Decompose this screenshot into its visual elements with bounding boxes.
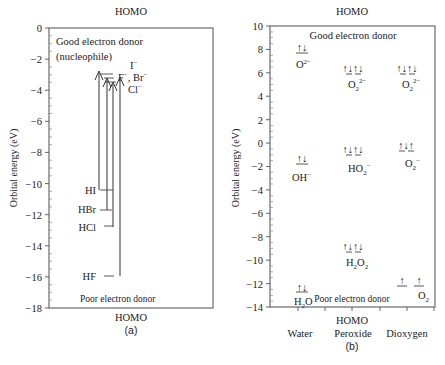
panel-b-poor-donor-label: Poor electron donor <box>314 294 390 304</box>
svg-text:−12: −12 <box>247 279 263 290</box>
category-peroxide: Peroxide <box>334 328 372 339</box>
svg-text:↑↓↑↓: ↑↓↑↓ <box>397 63 418 74</box>
panel-b-title: HOMO <box>336 6 369 17</box>
svg-text:−18: −18 <box>26 303 42 314</box>
svg-text:↑↓↑↓: ↑↓↑↓ <box>343 241 364 252</box>
svg-text:−8: −8 <box>31 147 42 158</box>
svg-text:−4: −4 <box>252 185 264 196</box>
svg-text:0: 0 <box>37 23 42 34</box>
svg-text:−4: −4 <box>31 85 43 96</box>
svg-text:↑↓: ↑↓ <box>297 42 308 53</box>
svg-text:I−: I− <box>130 59 138 71</box>
svg-text:↑↓↑↓: ↑↓↑↓ <box>343 63 364 74</box>
label-HCl: HCl <box>78 222 96 233</box>
svg-text:−8: −8 <box>252 232 263 243</box>
panel-a-caption: (a) <box>125 324 138 336</box>
svg-text:↑↓↑: ↑↓↑ <box>398 140 414 151</box>
panel-a-nucleophile-label: (nucleophile) <box>56 51 112 63</box>
panel-a-x-axis-label: HOMO <box>115 312 148 323</box>
homo-energy-figure: HOMO <box>0 0 445 365</box>
svg-text:F−, Br−: F−, Br− <box>118 71 148 83</box>
panel-a: HOMO <box>8 6 213 336</box>
svg-text:−16: −16 <box>26 272 42 283</box>
svg-text:↑↓: ↑↓ <box>297 153 308 164</box>
svg-text:10: 10 <box>253 21 264 32</box>
panel-a-y-axis-label: Orbital energy (eV) <box>8 129 20 208</box>
label-H2O: H2O <box>294 296 313 310</box>
svg-text:8: 8 <box>258 44 263 55</box>
label-O2-2minus-peroxide: O22− <box>348 77 367 93</box>
panel-a-title: HOMO <box>115 6 148 17</box>
svg-text:Cl−: Cl− <box>128 83 142 95</box>
label-HBr: HBr <box>78 204 97 215</box>
panel-b-y-tick-labels: 10 8 6 4 2 0 −2 −4 −6 −8 −10 −12 −14 <box>247 21 264 313</box>
svg-text:−2: −2 <box>252 161 263 172</box>
svg-text:−14: −14 <box>247 302 264 313</box>
label-HO2minus: HO2− <box>348 162 371 177</box>
svg-text:6: 6 <box>258 68 263 79</box>
svg-text:↑↓↑↓: ↑↓↑↓ <box>343 144 364 155</box>
panel-a-arrows <box>95 71 124 276</box>
svg-text:↑: ↑ <box>416 275 421 286</box>
label-HI: HI <box>85 185 97 196</box>
svg-text:−6: −6 <box>252 208 263 219</box>
category-water: Water <box>288 328 313 339</box>
label-O2-2minus-dioxygen: O22− <box>402 77 421 93</box>
svg-text:−12: −12 <box>26 210 42 221</box>
label-O2minus-dioxygen: O2− <box>405 157 420 172</box>
label-OHminus: OH− <box>292 171 311 183</box>
svg-text:↑: ↑ <box>399 275 404 286</box>
svg-text:−10: −10 <box>26 179 42 190</box>
svg-text:−14: −14 <box>26 241 43 252</box>
panel-a-poor-donor-label: Poor electron donor <box>80 294 156 304</box>
label-O2minus: O2− <box>296 58 311 70</box>
panel-b-y-axis-label: Orbital energy (eV) <box>230 129 242 208</box>
svg-text:−10: −10 <box>247 255 263 266</box>
category-dioxygen: Dioxygen <box>386 328 428 339</box>
label-H2O2: H2O2 <box>346 257 369 271</box>
panel-a-good-donor-label: Good electron donor <box>56 36 143 47</box>
panel-a-acid-levels: HI HBr HCl HF <box>78 185 114 282</box>
svg-text:−2: −2 <box>31 54 42 65</box>
panel-b-caption: (b) <box>346 340 359 352</box>
column-water: ↑↓ O2− ↑↓ OH− ↑↓ H2O <box>292 42 313 310</box>
svg-text:−6: −6 <box>31 116 42 127</box>
panel-b-good-donor-label: Good electron donor <box>310 30 397 41</box>
panel-a-y-tick-labels: 0 −2 −4 −6 −8 −10 −12 −14 −16 −18 <box>26 23 43 314</box>
column-dioxygen: ↑↓↑↓ O22− ↑↓↑ O2− ↑ ↑ O2 <box>397 63 430 304</box>
svg-text:2: 2 <box>258 115 263 126</box>
panel-a-ion-labels: I− F−, Br− Cl− <box>118 59 148 95</box>
svg-text:0: 0 <box>258 138 263 149</box>
svg-text:↑↓: ↑↓ <box>297 282 308 293</box>
panel-b-x-axis-label: HOMO <box>336 315 369 326</box>
label-O2: O2 <box>418 290 430 304</box>
svg-text:4: 4 <box>258 91 264 102</box>
column-peroxide: ↑↓↑↓ O22− ↑↓↑↓ HO2− ↑↓↑↓ H2O2 <box>343 63 371 271</box>
panel-b: HOMO <box>230 6 435 352</box>
label-HF: HF <box>83 271 97 282</box>
